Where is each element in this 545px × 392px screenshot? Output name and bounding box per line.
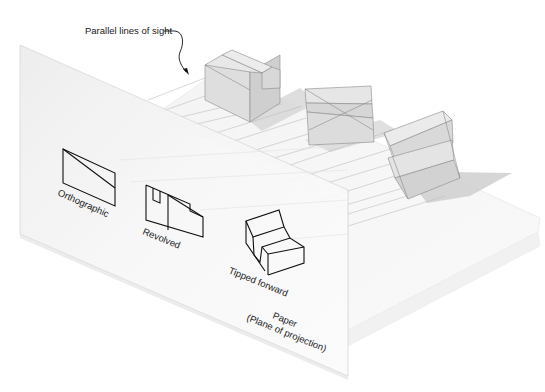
callout-arrowhead-icon bbox=[183, 68, 189, 75]
sight-lines-callout-label: Parallel lines of sight bbox=[85, 25, 172, 36]
block-revolved bbox=[305, 86, 374, 145]
projection-diagram: Orthographic Revolved Tipped forward Pap… bbox=[0, 0, 545, 392]
callout-leader-line bbox=[164, 31, 186, 72]
